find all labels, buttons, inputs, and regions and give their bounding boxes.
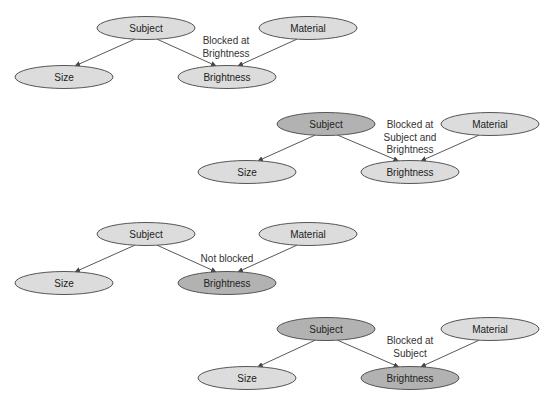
node-label: Size (54, 72, 74, 83)
node-material: Material (441, 318, 539, 341)
node-label: Brightness (203, 278, 250, 289)
blocking-annotation: Blocked at (203, 35, 250, 46)
diagram-2: SubjectSizeBrightnessMaterialBlocked atS… (198, 113, 539, 184)
node-label: Material (472, 119, 508, 130)
edge-subject-to-size (75, 245, 135, 272)
node-label: Subject (129, 229, 163, 240)
diagram-1: SubjectSizeBrightnessMaterialBlocked atB… (15, 17, 357, 89)
bayes-net-diagrams: SubjectSizeBrightnessMaterialBlocked atB… (0, 0, 551, 404)
node-size: Size (15, 272, 113, 295)
blocking-annotation: Subject and (384, 132, 437, 143)
node-label: Subject (309, 324, 343, 335)
node-label: Size (237, 167, 257, 178)
node-brightness: Brightness (178, 66, 276, 89)
node-brightness: Brightness (361, 367, 459, 390)
node-size: Size (198, 367, 296, 390)
blocking-annotation: Subject (393, 348, 427, 359)
node-size: Size (198, 161, 296, 184)
node-subject: Subject (97, 17, 195, 40)
node-label: Brightness (386, 167, 433, 178)
edge-subject-to-size (75, 39, 135, 66)
diagram-4: SubjectSizeBrightnessMaterialBlocked atS… (198, 318, 539, 390)
node-brightness: Brightness (361, 161, 459, 184)
edge-subject-to-size (258, 135, 315, 161)
node-label: Brightness (203, 72, 250, 83)
node-material: Material (441, 113, 539, 136)
node-material: Material (259, 223, 357, 246)
node-label: Material (290, 23, 326, 34)
edge-subject-to-size (258, 340, 315, 367)
node-label: Brightness (386, 373, 433, 384)
node-label: Size (54, 278, 74, 289)
node-label: Size (237, 373, 257, 384)
diagram-3: SubjectSizeBrightnessMaterialNot blocked (15, 223, 357, 295)
node-label: Material (472, 324, 508, 335)
node-size: Size (15, 66, 113, 89)
blocking-annotation: Brightness (202, 48, 249, 59)
node-brightness: Brightness (178, 272, 276, 295)
node-label: Subject (129, 23, 163, 34)
node-subject: Subject (277, 113, 375, 136)
node-label: Subject (309, 119, 343, 130)
blocking-annotation: Brightness (386, 144, 433, 155)
blocking-annotation: Blocked at (387, 119, 434, 130)
blocking-annotation: Not blocked (201, 253, 254, 264)
node-material: Material (259, 17, 357, 40)
blocking-annotation: Blocked at (387, 335, 434, 346)
node-subject: Subject (97, 223, 195, 246)
node-label: Material (290, 229, 326, 240)
node-subject: Subject (277, 318, 375, 341)
